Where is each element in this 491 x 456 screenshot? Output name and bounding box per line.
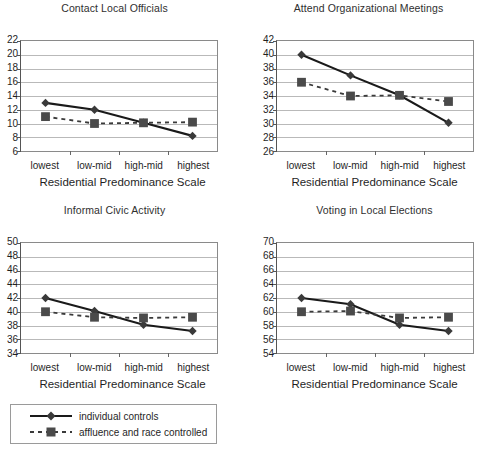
data-point-marker-diamond	[90, 106, 98, 114]
x-axis-tick-label: high-mid	[381, 362, 419, 373]
x-axis-tick-label: low-mid	[77, 362, 111, 373]
data-point-marker-square	[139, 314, 148, 323]
x-axis-tick-label: lowest	[287, 160, 315, 171]
y-axis-tick-label: 34	[7, 349, 18, 359]
chart-legend: individual controls affluence and race c…	[10, 404, 217, 444]
y-axis-labels: 2220181614121086	[0, 36, 18, 156]
plot-wrap: 424038363432302826	[246, 36, 491, 156]
y-axis-tick	[273, 151, 277, 152]
chart-title: Attend Organizational Meetings	[246, 2, 491, 14]
x-axis-title: Residential Predominance Scale	[0, 176, 245, 188]
chart-title: Informal Civic Activity	[0, 204, 237, 216]
data-point-marker-diamond	[297, 294, 305, 302]
x-axis-tick	[70, 353, 71, 357]
x-axis-tick-label: highest	[433, 362, 465, 373]
x-axis-tick	[119, 151, 120, 155]
data-point-marker-square	[188, 313, 197, 322]
x-axis-tick-label: low-mid	[333, 362, 367, 373]
y-axis-labels: 706866646260585654	[250, 238, 274, 358]
data-point-marker-square	[297, 78, 306, 87]
x-axis-tick	[375, 151, 376, 155]
data-point-marker-diamond	[444, 119, 452, 127]
y-axis-tick	[273, 353, 277, 354]
legend-marker-diamond-icon	[29, 410, 73, 422]
x-axis-tick	[424, 151, 425, 155]
data-point-marker-square	[90, 119, 99, 128]
chart-title: Contact Local Officials	[0, 2, 237, 14]
y-axis-labels: 504846444240383634	[0, 238, 18, 358]
x-axis-tick-label: high-mid	[381, 160, 419, 171]
data-point-marker-diamond	[297, 51, 305, 59]
y-axis-tick-label: 54	[263, 349, 274, 359]
y-axis-tick-label: 42	[263, 35, 274, 45]
y-axis-tick	[17, 151, 21, 152]
plot-area	[276, 40, 474, 152]
plot-area	[20, 40, 218, 152]
series-line	[46, 312, 193, 318]
y-axis-labels: 424038363432302826	[250, 36, 274, 156]
data-point-marker-diamond	[188, 327, 196, 335]
x-axis-tick-label: high-mid	[125, 160, 163, 171]
x-axis-tick-label: lowest	[31, 160, 59, 171]
x-axis-tick-label: highest	[433, 160, 465, 171]
chart-panel-voting-in-local-elections: Voting in Local Elections 70686664626058…	[246, 202, 491, 397]
data-point-marker-square	[444, 313, 453, 322]
y-axis-tick-label: 26	[263, 147, 274, 157]
series-layer	[21, 243, 217, 353]
data-point-marker-square	[297, 307, 306, 316]
legend-marker-square-icon	[29, 426, 73, 438]
data-point-marker-square	[395, 314, 404, 323]
x-axis-tick	[168, 151, 169, 155]
x-axis-title: Residential Predominance Scale	[0, 378, 245, 390]
x-axis-tick-label: high-mid	[125, 362, 163, 373]
x-axis-tick	[326, 353, 327, 357]
series-line	[46, 117, 193, 124]
chart-panel-attend-organizational-meetings: Attend Organizational Meetings 424038363…	[246, 0, 491, 200]
plot-area	[20, 242, 218, 354]
chart-panel-informal-civic-activity: Informal Civic Activity 5048464442403836…	[0, 202, 245, 397]
x-axis-tick-label: highest	[177, 362, 209, 373]
x-axis-tick	[168, 353, 169, 357]
x-axis-tick-label: low-mid	[77, 160, 111, 171]
x-axis-tick-label: highest	[177, 160, 209, 171]
chart-panel-contact-local-officials: Contact Local Officials 2220181614121086…	[0, 0, 245, 200]
x-axis-tick	[326, 151, 327, 155]
series-line	[302, 311, 449, 318]
plot-wrap: 2220181614121086	[0, 36, 245, 156]
series-line	[46, 103, 193, 136]
data-point-marker-square	[139, 118, 148, 127]
series-line	[46, 298, 193, 331]
data-point-marker-diamond	[444, 327, 452, 335]
series-layer	[277, 41, 473, 151]
series-line	[302, 55, 449, 123]
data-point-marker-square	[395, 91, 404, 100]
data-point-marker-square	[346, 307, 355, 316]
x-axis-tick	[424, 353, 425, 357]
x-axis-title: Residential Predominance Scale	[252, 176, 491, 188]
data-point-marker-square	[41, 307, 50, 316]
y-axis-tick-label: 70	[263, 237, 274, 247]
y-axis-tick	[17, 353, 21, 354]
x-axis-tick-label: lowest	[31, 362, 59, 373]
data-point-marker-diamond	[346, 71, 354, 79]
data-point-marker-square	[90, 313, 99, 322]
series-layer	[21, 41, 217, 151]
plot-wrap: 504846444240383634	[0, 238, 245, 358]
data-point-marker-diamond	[41, 294, 49, 302]
x-axis-tick	[119, 353, 120, 357]
legend-label: individual controls	[79, 411, 159, 422]
plot-area	[276, 242, 474, 354]
x-axis-tick-label: low-mid	[333, 160, 367, 171]
data-point-marker-square	[41, 112, 50, 121]
x-axis-tick-label: lowest	[287, 362, 315, 373]
x-axis-title: Residential Predominance Scale	[252, 378, 491, 390]
legend-item-affluence-race-controlled: affluence and race controlled	[29, 426, 207, 438]
data-point-marker-diamond	[188, 132, 196, 140]
y-axis-tick-label: 50	[7, 237, 18, 247]
data-point-marker-square	[346, 92, 355, 101]
plot-wrap: 706866646260585654	[246, 238, 491, 358]
x-axis-tick	[70, 151, 71, 155]
legend-label: affluence and race controlled	[79, 427, 207, 438]
data-point-marker-square	[444, 97, 453, 106]
y-axis-tick-label: 22	[7, 35, 18, 45]
